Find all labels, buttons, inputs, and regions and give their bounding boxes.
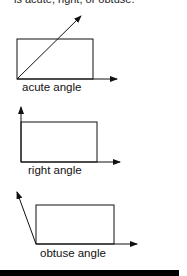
bottom-bar-divider xyxy=(0,270,179,276)
obtuse-slanted-ray xyxy=(17,192,36,244)
right-angle-figure xyxy=(21,107,120,162)
acute-diagonal-ray xyxy=(17,16,81,79)
right-rectangle xyxy=(21,122,97,162)
angle-diagrams xyxy=(0,0,187,276)
obtuse-rectangle xyxy=(36,205,114,244)
obtuse-angle-figure xyxy=(17,192,137,244)
acute-rectangle xyxy=(17,39,93,79)
right-angle-label: right angle xyxy=(28,164,82,176)
obtuse-angle-label: obtuse angle xyxy=(40,247,106,259)
acute-angle-figure xyxy=(17,16,117,79)
acute-angle-label: acute angle xyxy=(22,81,81,93)
